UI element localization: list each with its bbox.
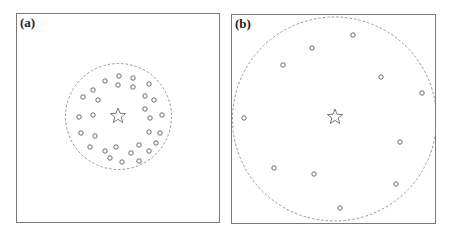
node-marker (93, 134, 97, 138)
node-marker (131, 85, 135, 89)
boundary-circle (233, 17, 437, 221)
node-marker (148, 116, 152, 120)
node-marker (103, 79, 107, 83)
diagram-canvas (0, 0, 451, 234)
node-marker (242, 116, 246, 120)
panel-b-content (233, 17, 437, 221)
node-marker (338, 206, 342, 210)
node-marker (158, 131, 162, 135)
node-marker (147, 82, 151, 86)
node-marker (117, 74, 121, 78)
node-marker (154, 141, 158, 145)
panel-a-content (66, 64, 172, 170)
node-marker (379, 75, 383, 79)
node-marker (137, 143, 141, 147)
star-icon (110, 108, 125, 122)
star-icon (327, 109, 342, 123)
node-marker (351, 33, 355, 37)
node-marker (103, 149, 107, 153)
node-marker (312, 172, 316, 176)
node-marker (143, 94, 147, 98)
node-marker (137, 159, 141, 163)
node-marker (394, 182, 398, 186)
node-marker (129, 151, 133, 155)
node-marker (96, 98, 100, 102)
node-marker (131, 76, 135, 80)
node-marker (143, 107, 147, 111)
node-marker (120, 160, 124, 164)
node-marker (272, 166, 276, 170)
node-marker (91, 113, 95, 117)
node-marker (108, 156, 112, 160)
node-marker (88, 145, 92, 149)
node-marker (152, 98, 156, 102)
node-marker (147, 130, 151, 134)
node-marker (281, 63, 285, 67)
node-marker (114, 145, 118, 149)
node-marker (147, 149, 151, 153)
node-marker (79, 131, 83, 135)
node-marker (420, 91, 424, 95)
node-marker (81, 95, 85, 99)
node-marker (160, 113, 164, 117)
node-marker (398, 140, 402, 144)
node-marker (116, 83, 120, 87)
node-marker (77, 115, 81, 119)
node-marker (310, 46, 314, 50)
node-marker (91, 88, 95, 92)
